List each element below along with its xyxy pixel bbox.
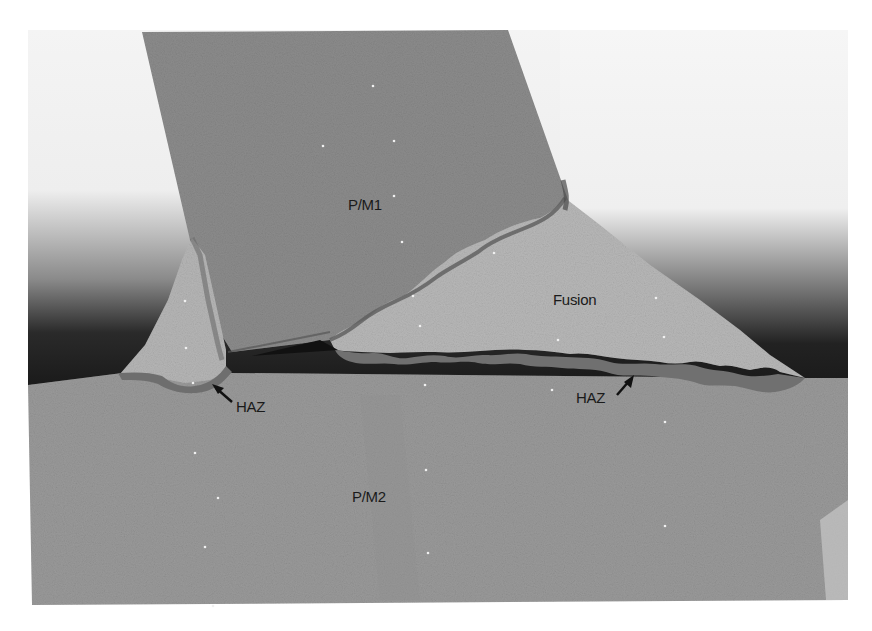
annotation-arrows — [0, 0, 872, 631]
label-parent-metal-1: P/M1 — [348, 196, 382, 213]
label-haz-right: HAZ — [576, 389, 605, 406]
weld-macrograph: P/M1 Fusion HAZ HAZ P/M2 — [0, 0, 872, 631]
label-parent-metal-2: P/M2 — [352, 488, 386, 505]
arrow-icon-left-haz — [212, 384, 232, 402]
label-fusion-zone: Fusion — [553, 291, 596, 308]
label-haz-left: HAZ — [236, 398, 265, 415]
arrow-icon-right-haz — [617, 375, 634, 395]
